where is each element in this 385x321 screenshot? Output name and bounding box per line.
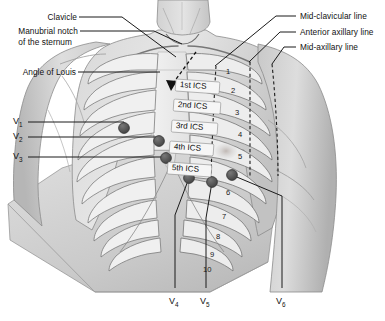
- label-ics-4: 4th ICS: [174, 142, 202, 153]
- label-mid-axillary-line: Mid-axillary line: [300, 42, 358, 52]
- rib-number-10: 10: [203, 265, 211, 274]
- label-ics-2: 2nd ICS: [178, 100, 208, 111]
- electrode-v2[interactable]: [154, 136, 165, 147]
- rib-number-6: 6: [226, 188, 230, 197]
- left-arm-contour-2: [48, 110, 70, 172]
- rib-number-4: 4: [238, 130, 242, 139]
- label-anterior-axillary-line: Anterior axillary line: [300, 27, 374, 37]
- diagram-canvas: Clavicle Manubrial notch of the sternum …: [0, 0, 385, 321]
- label-ics-3: 3rd ICS: [176, 121, 204, 132]
- label-v4-sub: 4: [175, 301, 179, 308]
- label-ics-5: 5th ICS: [172, 163, 200, 174]
- electrode-v6[interactable]: [227, 170, 238, 181]
- rib-number-1: 1: [226, 67, 230, 76]
- label-manubrial-notch-line2: of the sternum: [0, 37, 72, 47]
- label-clavicle: Clavicle: [0, 12, 77, 22]
- label-ics-1: 1st ICS: [180, 80, 207, 91]
- label-v6: V6: [276, 296, 286, 308]
- electrode-v1[interactable]: [119, 123, 130, 134]
- label-v3-sub: 3: [19, 156, 23, 163]
- label-v1-sub: 1: [19, 121, 23, 128]
- neck-shape: [157, 0, 210, 35]
- label-v4: V4: [169, 296, 179, 308]
- label-v6-sub: 6: [282, 301, 286, 308]
- nipple-shading-right: [215, 143, 237, 159]
- rib-number-8: 8: [216, 232, 220, 241]
- rib-number-2: 2: [231, 86, 235, 95]
- label-manubrial-notch-line1: Manubrial notch: [0, 26, 78, 36]
- electrode-v5[interactable]: [207, 177, 218, 188]
- label-v5-sub: 5: [206, 301, 210, 308]
- label-v5: V5: [200, 296, 210, 308]
- label-angle-of-louis: Angle of Louis: [0, 67, 76, 77]
- rib-number-3: 3: [235, 108, 239, 117]
- label-v3: V3: [13, 151, 23, 163]
- label-v2: V2: [13, 131, 23, 143]
- label-v1: V1: [13, 116, 23, 128]
- label-v2-sub: 2: [19, 136, 23, 143]
- electrode-v3[interactable]: [161, 153, 172, 164]
- rib-number-9: 9: [210, 250, 214, 259]
- label-mid-clavicular-line: Mid-clavicular line: [300, 11, 367, 21]
- rib-number-7: 7: [222, 212, 226, 221]
- rib-number-5: 5: [238, 152, 242, 161]
